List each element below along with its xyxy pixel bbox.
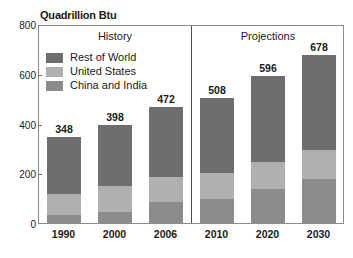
- bar-stack[interactable]: [47, 137, 81, 224]
- y-tick-label: 0: [6, 219, 36, 230]
- bottom-clipped-artifact: [0, 248, 353, 258]
- bar-segment[interactable]: [47, 215, 81, 224]
- x-tick-label: 2000: [89, 228, 140, 240]
- y-tick-label: 800: [6, 20, 36, 31]
- bar-segment[interactable]: [200, 173, 234, 199]
- bar-segment[interactable]: [200, 98, 234, 174]
- y-tick-mark: [38, 75, 42, 76]
- bar-segment[interactable]: [98, 212, 132, 224]
- bar-segment[interactable]: [98, 186, 132, 212]
- bar-total-label: 596: [251, 62, 285, 74]
- bar-segment[interactable]: [251, 76, 285, 162]
- bar-segment[interactable]: [251, 162, 285, 189]
- bar-total-label: 678: [302, 41, 336, 53]
- bar-segment[interactable]: [200, 199, 234, 224]
- y-tick-mark: [38, 125, 42, 126]
- bar-group: [200, 25, 234, 224]
- x-tick-label: 2020: [242, 228, 293, 240]
- chart-title: Quadrillion Btu: [40, 9, 116, 21]
- bar-segment[interactable]: [149, 177, 183, 202]
- bar-segment[interactable]: [251, 189, 285, 224]
- y-tick-label: 400: [6, 119, 36, 130]
- bar-segment[interactable]: [47, 194, 81, 214]
- y-axis: 0200400600800: [0, 0, 36, 258]
- bar-group: [251, 25, 285, 224]
- bar-stack[interactable]: [200, 98, 234, 224]
- bar-stack[interactable]: [149, 107, 183, 224]
- bar-total-label: 508: [200, 84, 234, 96]
- bar-group: [302, 25, 336, 224]
- x-tick-label: 2030: [293, 228, 344, 240]
- bar-segment[interactable]: [302, 150, 336, 179]
- y-tick-label: 200: [6, 169, 36, 180]
- y-tick-label: 600: [6, 69, 36, 80]
- bar-segment[interactable]: [302, 179, 336, 224]
- chart-figure: Quadrillion Btu 0200400600800 History Pr…: [0, 0, 353, 258]
- bar-stack[interactable]: [98, 125, 132, 224]
- bar-segment[interactable]: [302, 55, 336, 150]
- bar-stack[interactable]: [251, 76, 285, 224]
- bar-group: [98, 25, 132, 224]
- bar-total-label: 472: [149, 93, 183, 105]
- bar-total-label: 398: [98, 111, 132, 123]
- bar-segment[interactable]: [98, 125, 132, 186]
- bar-group: [149, 25, 183, 224]
- x-tick-label: 2010: [191, 228, 242, 240]
- panel-divider: [191, 26, 192, 223]
- y-tick-mark: [38, 174, 42, 175]
- bar-total-label: 348: [47, 123, 81, 135]
- bar-segment[interactable]: [47, 137, 81, 194]
- bar-segment[interactable]: [149, 202, 183, 224]
- x-tick-label: 2006: [140, 228, 191, 240]
- x-tick-label: 1990: [38, 228, 89, 240]
- bar-segment[interactable]: [149, 107, 183, 177]
- bar-stack[interactable]: [302, 55, 336, 224]
